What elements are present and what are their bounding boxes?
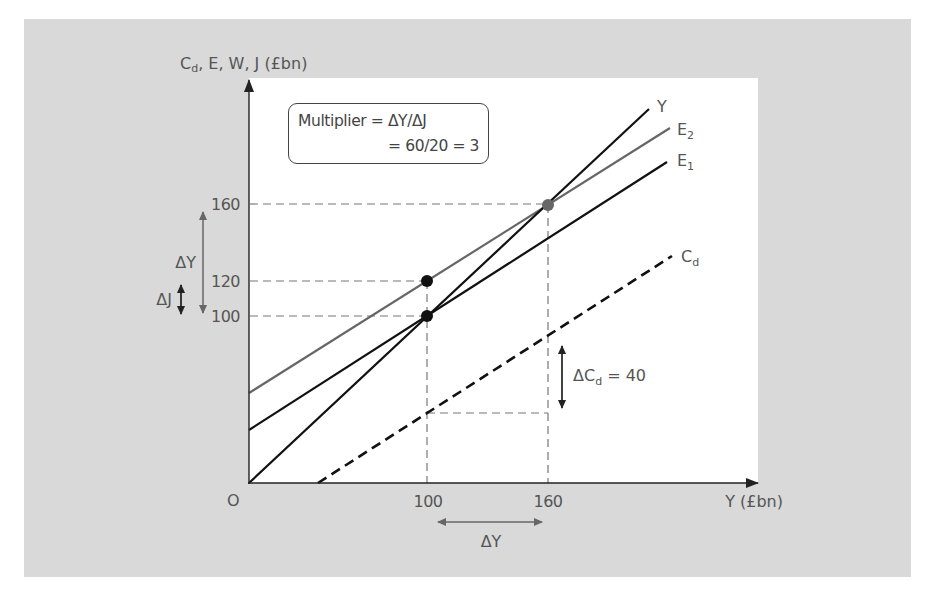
delta-cd-label: ΔCd = 40 [573, 366, 646, 388]
point-e2-equilibrium [542, 199, 554, 211]
x-axis-label: Y (£bn) [724, 492, 783, 511]
line-y [249, 109, 649, 483]
label-y-line: Y [656, 97, 667, 116]
formula-line-2: = 60/20 = 3 [388, 137, 479, 155]
diagram-svg: 160 120 100 100 160 O Cd, E, W, J (£bn) … [0, 0, 925, 592]
line-e1 [249, 162, 667, 430]
y-tick-160: 160 [211, 195, 240, 214]
point-e1-equilibrium [421, 310, 433, 322]
point-e2-at-100 [421, 275, 433, 287]
y-tick-120: 120 [211, 272, 240, 291]
line-e2 [249, 128, 670, 393]
formula-line-1: Multiplier = ΔY/ΔJ [298, 112, 426, 130]
delta-y-horizontal-label: ΔY [481, 532, 502, 551]
delta-y-vertical-label: ΔY [175, 253, 196, 272]
x-tick-160: 160 [533, 492, 562, 511]
x-tick-100: 100 [413, 492, 442, 511]
y-tick-100: 100 [211, 307, 240, 326]
origin-label: O [227, 491, 239, 510]
y-axis-label: Cd, E, W, J (£bn) [180, 54, 307, 75]
delta-j-label: ΔJ [156, 290, 172, 309]
label-cd-line: Cd [681, 247, 699, 269]
label-e2-line: E2 [677, 120, 694, 142]
multiplier-formula-box: Multiplier = ΔY/ΔJ = 60/20 = 3 [288, 103, 489, 164]
label-e1-line: E1 [677, 151, 694, 173]
